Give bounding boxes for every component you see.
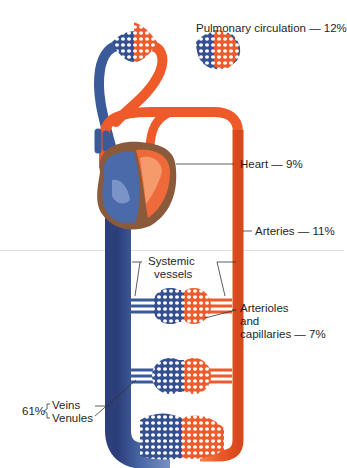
- label-heart: Heart — 9%: [240, 158, 303, 171]
- label-veins-percent: 61%: [22, 405, 45, 418]
- label-venules: Venules: [52, 412, 93, 425]
- capillary-bed-1: [131, 288, 232, 324]
- heart: [97, 132, 176, 230]
- capillary-bed-2: [131, 358, 232, 394]
- label-pulmonary-circulation: Pulmonary circulation — 12%: [196, 22, 347, 35]
- capillary-bed-3: [140, 413, 224, 459]
- label-arterioles-line2: and: [240, 315, 259, 328]
- label-systemic-line2: vessels: [154, 268, 192, 281]
- label-systemic-line1: Systemic: [148, 255, 195, 268]
- label-veins: Veins: [52, 399, 80, 412]
- label-arteries: Arteries — 11%: [255, 225, 335, 238]
- label-arterioles-line1: Arterioles: [240, 302, 289, 315]
- label-arterioles-line3: capillaries — 7%: [240, 328, 326, 341]
